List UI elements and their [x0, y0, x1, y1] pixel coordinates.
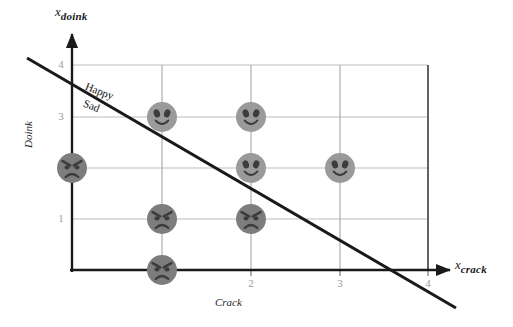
x-tick-label-2: 2: [244, 277, 258, 289]
eye-left: [155, 267, 160, 271]
face-circle: [236, 153, 266, 183]
face-circle: [236, 204, 266, 234]
eye-right: [254, 216, 259, 220]
eye-right: [165, 216, 170, 220]
face-circle: [147, 102, 177, 132]
eye-left: [155, 216, 160, 220]
eye-right: [75, 165, 80, 169]
eye-left: [244, 216, 249, 220]
axes: [70, 34, 450, 272]
data-point-happy[interactable]: [236, 153, 266, 183]
data-point-sad[interactable]: [147, 204, 177, 234]
data-point-happy[interactable]: [147, 102, 177, 132]
data-point-sad[interactable]: [236, 204, 266, 234]
y-axis-symbol-subscript: doink: [61, 10, 88, 22]
y-tick-label-3: 3: [54, 110, 68, 122]
x-tick-label-4: 4: [421, 277, 435, 289]
y-tick-label-1: 1: [54, 212, 68, 224]
eye-right: [165, 267, 170, 271]
chart-canvas: xdoink xcrack Crack Doink Happy Sad 4 3 …: [0, 0, 513, 327]
y-axis-feature-label: Doink: [22, 121, 34, 148]
y-tick-label-4: 4: [54, 58, 68, 70]
x-axis-symbol-subscript: crack: [461, 263, 487, 275]
x-axis-feature-label: Crack: [215, 296, 242, 308]
x-axis-title: xcrack: [455, 257, 487, 275]
face-circle: [325, 153, 355, 183]
face-circle: [147, 204, 177, 234]
data-point-happy[interactable]: [236, 102, 266, 132]
data-point-happy[interactable]: [325, 153, 355, 183]
y-axis-title: xdoink: [55, 4, 87, 22]
face-circle: [236, 102, 266, 132]
x-tick-label-3: 3: [333, 277, 347, 289]
data-markers: [57, 102, 355, 285]
